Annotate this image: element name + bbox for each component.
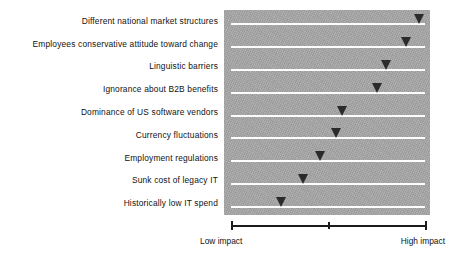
axis-endpoint-captions: Low impact High impact [190,236,455,250]
value-marker [372,83,382,93]
category-label: Currency fluctuations [0,131,218,140]
value-marker [337,106,347,116]
category-track-line [231,46,425,48]
category-track-line [231,137,425,139]
category-label: Historically low IT spend [0,199,218,208]
category-track-line [231,206,425,208]
value-axis [224,215,430,233]
value-marker [315,151,325,161]
category-track-line [231,92,425,94]
impact-ranking-chart: Different national market structuresEmpl… [0,0,459,257]
value-marker [276,197,286,207]
plot-area [224,10,430,215]
category-track-line [231,115,425,117]
category-label: Ignorance about B2B benefits [0,85,218,94]
category-label: Employees conservative attitude toward c… [0,40,218,49]
axis-tick [328,222,330,229]
category-track-line [231,23,425,25]
value-marker [401,37,411,47]
category-track-line [231,183,425,185]
category-label: Linguistic barriers [0,62,218,71]
value-marker [414,14,424,24]
value-marker [381,60,391,70]
axis-caption-high-impact: High impact [401,236,445,246]
category-track-line [231,160,425,162]
category-axis-labels: Different national market structuresEmpl… [0,10,218,215]
axis-tick [425,221,427,230]
category-track-line [231,69,425,71]
value-marker [298,174,308,184]
category-label: Sunk cost of legacy IT [0,176,218,185]
category-label: Employment regulations [0,154,218,163]
category-label: Dominance of US software vendors [0,108,218,117]
axis-caption-low-impact: Low impact [200,236,242,246]
value-marker [331,128,341,138]
category-label: Different national market structures [0,17,218,26]
axis-tick [231,221,233,230]
